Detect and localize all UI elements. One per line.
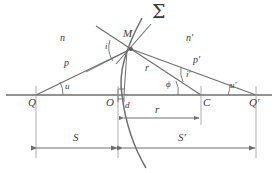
dimension-label-S-prime: S′: [178, 132, 186, 143]
angle-label-i-prime: i′: [186, 70, 190, 79]
angle-label-i: i: [105, 42, 108, 51]
ray-label-p-prime: p′: [193, 55, 200, 65]
refracting-surface-curve: [121, 18, 146, 168]
surface-label-sigma: Σ: [152, 2, 165, 21]
point-label-C: C: [203, 97, 210, 108]
point-label-Q-prime: Q′: [249, 97, 259, 108]
medium-label-n: n: [60, 33, 65, 43]
ray-label-p: p: [64, 58, 69, 68]
dimension-label-S: S: [73, 132, 79, 143]
angle-label-u-prime: u′: [230, 81, 236, 90]
optics-refraction-diagram: Σ M Q O C Q′ n n′ p p′ r i i′ u u′ ϕ d r…: [0, 0, 276, 173]
point-label-Q: Q: [28, 97, 36, 108]
point-label-M: M: [123, 28, 132, 39]
angle-label-phi: ϕ: [166, 80, 171, 89]
point-label-O: O: [106, 97, 114, 108]
angle-arc-phi: [176, 81, 178, 95]
dimension-label-d: d: [125, 101, 130, 110]
medium-label-n-prime: n′: [186, 33, 193, 43]
angle-arc-u: [60, 82, 63, 95]
dimension-label-r: r: [155, 104, 159, 115]
surface-tangent-line: [116, 24, 151, 64]
angle-label-u: u: [65, 82, 70, 91]
point-marker-M: [129, 47, 133, 51]
angle-arc-i-prime: [181, 67, 183, 82]
ray-label-r-radius: r: [145, 63, 149, 73]
